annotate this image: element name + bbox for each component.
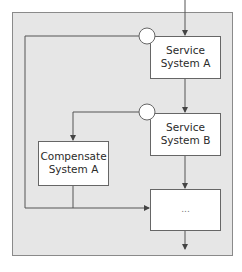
continuation-label: ... — [181, 204, 190, 214]
service-a-line2: System A — [161, 57, 211, 69]
flow-diagram: Service System A Service System B Compen… — [0, 0, 242, 272]
event-a-circle-icon — [139, 28, 155, 44]
service-b-line1: Service — [166, 121, 205, 133]
event-b-circle-icon — [139, 104, 155, 120]
service-b-line2: System B — [161, 134, 211, 146]
service-system-a-box: Service System A — [151, 37, 221, 79]
continuation-box: ... — [151, 190, 221, 231]
compensate-system-a-box: Compensate System A — [39, 142, 109, 186]
service-system-b-box: Service System B — [151, 114, 221, 156]
compensate-line1: Compensate — [40, 150, 106, 162]
service-a-line1: Service — [166, 44, 205, 56]
compensate-line2: System A — [49, 163, 99, 175]
